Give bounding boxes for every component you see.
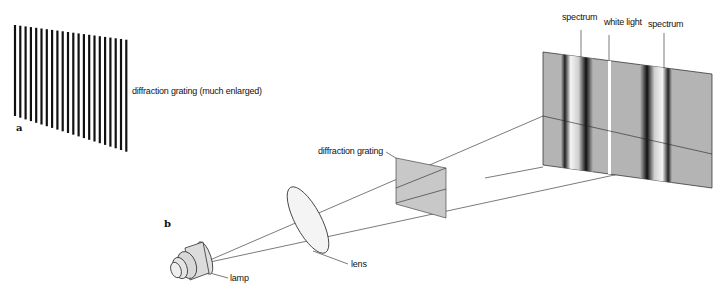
lens	[279, 181, 337, 259]
grating-label: diffraction grating	[318, 146, 383, 156]
enlarged-grating	[15, 25, 126, 152]
lamp-label: lamp	[230, 273, 249, 283]
lamp	[169, 240, 216, 281]
lens-label: lens	[351, 259, 367, 269]
white-light-label: white light	[604, 17, 642, 27]
grating-enlarged-label: diffraction grating (much enlarged)	[132, 86, 262, 96]
screen	[543, 40, 712, 200]
spectrum-right-label: spectrum	[648, 19, 683, 29]
spectrum-left-label: spectrum	[562, 12, 597, 22]
diffraction-grating	[396, 158, 446, 218]
panel-b-letter: b	[164, 218, 171, 229]
panel-a-letter: a	[16, 122, 22, 133]
